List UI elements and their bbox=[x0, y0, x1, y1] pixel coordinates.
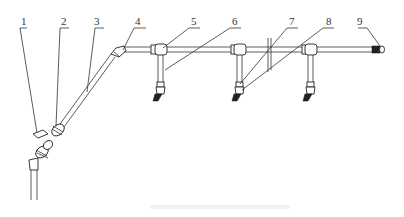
pipe-assembly-diagram: 1 2 3 4 5 6 7 8 9 bbox=[0, 0, 404, 217]
callout-3: 3 bbox=[94, 15, 100, 27]
valve-handle bbox=[33, 130, 48, 138]
union-fitting bbox=[49, 122, 66, 139]
callout-1: 1 bbox=[21, 15, 27, 27]
callout-6: 6 bbox=[232, 15, 238, 27]
break-marks bbox=[268, 38, 271, 72]
callout-7: 7 bbox=[289, 15, 295, 27]
callout-8: 8 bbox=[326, 15, 332, 27]
figure-caption bbox=[150, 205, 290, 209]
tee-drop-1 bbox=[151, 44, 167, 101]
coupling-cluster bbox=[33, 122, 67, 161]
callout-2: 2 bbox=[61, 15, 67, 27]
callout-4: 4 bbox=[135, 15, 141, 27]
tee-drop-2 bbox=[231, 44, 246, 101]
callout-5: 5 bbox=[191, 15, 197, 27]
tee-drop-3 bbox=[302, 44, 317, 101]
leader-lines bbox=[20, 28, 380, 133]
riser-pipe bbox=[29, 158, 38, 200]
callout-9: 9 bbox=[357, 15, 363, 27]
end-cap bbox=[372, 46, 385, 53]
